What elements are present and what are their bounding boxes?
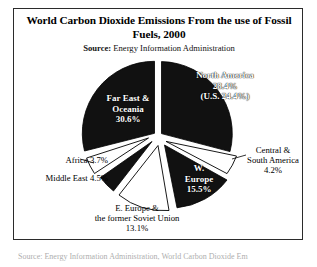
source-label: Source: bbox=[83, 43, 111, 53]
slice-label-central-south-america: Central & South America 4.2% bbox=[232, 145, 303, 176]
slice-value-far-east: 30.6% bbox=[85, 114, 171, 125]
slice-label-w-europe-line2: Europe bbox=[168, 174, 230, 185]
slice-label-e-europe-line1: E. Europe & bbox=[115, 203, 159, 213]
page-title: World Carbon Dioxide Emissions From the … bbox=[14, 14, 303, 41]
slice-e-europe[interactable] bbox=[119, 146, 169, 211]
slice-label-far-east-oceania: Far East & Oceania 30.6% bbox=[85, 93, 171, 125]
slice-label-far-east-line1: Far East & bbox=[107, 93, 150, 103]
pie-chart: North America 28.4% (U.S. 24.4%) Far Eas… bbox=[14, 55, 303, 240]
slice-label-north-america-name: North America bbox=[196, 70, 254, 80]
slice-label-w-europe: W. Europe 15.5% bbox=[168, 163, 230, 195]
slice-value-w-europe: 15.5% bbox=[168, 184, 230, 195]
slice-label-middle-east: Middle East 4.5% bbox=[14, 173, 108, 183]
slice-label-north-america: North America 28.4% (U.S. 24.4%) bbox=[182, 70, 268, 102]
slice-sub-north-america: (U.S. 24.4%) bbox=[182, 91, 268, 102]
slice-label-w-europe-line1: W. bbox=[194, 163, 204, 173]
slice-value-north-america: 28.4% bbox=[182, 81, 268, 92]
slice-label-e-europe: E. Europe & the former Soviet Union 13.1… bbox=[72, 203, 202, 234]
slice-label-central-south-line2: South America bbox=[232, 155, 303, 165]
source-value: Energy Information Administration bbox=[111, 43, 235, 53]
slice-value-central-south: 4.2% bbox=[232, 165, 303, 175]
slice-label-africa: Africa 3.7% bbox=[22, 155, 108, 165]
slice-label-e-europe-line2: the former Soviet Union bbox=[72, 213, 202, 223]
chart-source: Source: Energy Information Administratio… bbox=[14, 43, 303, 54]
slice-value-e-europe: 13.1% bbox=[72, 223, 202, 233]
figure-frame: World Carbon Dioxide Emissions From the … bbox=[13, 8, 303, 240]
bottom-caption: Source: Energy Information Administratio… bbox=[18, 252, 308, 262]
title-block: World Carbon Dioxide Emissions From the … bbox=[14, 14, 303, 54]
slice-label-central-south-line1: Central & bbox=[256, 145, 291, 155]
slice-label-far-east-line2: Oceania bbox=[85, 104, 171, 115]
